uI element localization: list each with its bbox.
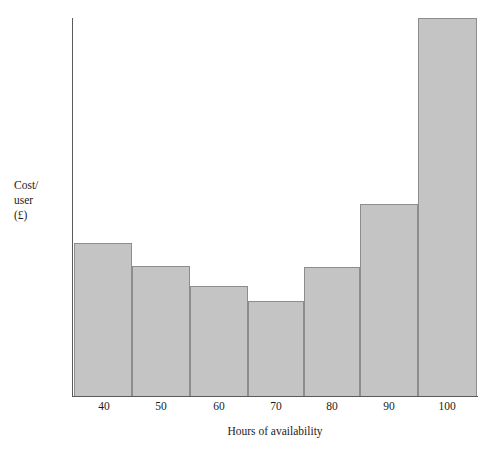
bar [418, 18, 477, 396]
bar [132, 266, 190, 396]
y-axis-label-line-2: user [14, 193, 70, 208]
bar [248, 301, 304, 396]
y-axis-label: Cost/ user (£) [14, 178, 70, 223]
x-axis-tick-label: 80 [302, 400, 362, 412]
plot-area [0, 0, 491, 458]
bar [304, 267, 360, 396]
histogram-figure: Cost/ user (£) 405060708090100 Hours of … [0, 0, 491, 458]
x-axis-tick-label: 100 [417, 400, 477, 412]
x-axis-tick-label: 90 [359, 400, 419, 412]
bar [74, 243, 132, 396]
y-axis-label-line-1: Cost/ [14, 178, 70, 193]
x-axis-tick-label: 60 [189, 400, 249, 412]
y-axis-line [72, 18, 73, 397]
x-axis-tick-label: 70 [246, 400, 306, 412]
x-axis-tick-label: 40 [74, 400, 134, 412]
x-axis-line [72, 396, 478, 397]
y-axis-label-line-3: (£) [14, 208, 70, 223]
bar [360, 204, 418, 396]
bar [190, 286, 248, 396]
x-axis-title: Hours of availability [72, 425, 478, 437]
x-axis-tick-label: 50 [131, 400, 191, 412]
